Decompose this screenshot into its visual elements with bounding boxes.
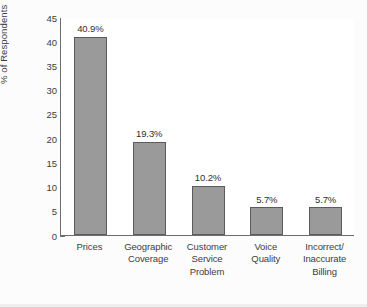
x-axis-label: GeographicCoverage — [119, 241, 178, 266]
x-axis-label-line: Geographic — [119, 241, 178, 253]
x-axis-label-line: Service — [178, 253, 237, 265]
x-axis-label: CustomerServiceProblem — [178, 241, 237, 278]
x-axis-label-line: Billing — [295, 266, 354, 278]
bar-value-label: 5.7% — [256, 194, 277, 205]
y-axis-tick-label: 0 — [52, 230, 60, 241]
x-axis-label-line: Quality — [236, 253, 295, 265]
y-axis-tick-label: 40 — [46, 36, 60, 47]
y-axis-tick-label: 5 — [52, 206, 60, 217]
y-axis-title: % of Respondents — [0, 0, 9, 84]
bar-group[interactable]: 5.7% — [250, 17, 283, 235]
x-axis-label: VoiceQuality — [236, 241, 295, 266]
x-axis-label: Incorrect/InaccurateBilling — [295, 241, 354, 278]
y-axis-tick-label: 20 — [46, 133, 60, 144]
y-axis-tick-label: 45 — [46, 12, 60, 23]
x-axis-label: Prices — [60, 241, 119, 253]
x-axis-label-line: Inaccurate — [295, 253, 354, 265]
bar-value-label: 10.2% — [195, 172, 221, 183]
bar-rect[interactable] — [133, 142, 166, 235]
y-axis-tick-label: 35 — [46, 60, 60, 71]
bar-value-label: 40.9% — [77, 23, 103, 34]
plot-area: 40.9%19.3%10.2%5.7%5.7% — [60, 18, 354, 236]
x-axis-label-line: Incorrect/ — [295, 241, 354, 253]
x-axis-label-line: Prices — [60, 241, 119, 253]
bar-group[interactable]: 40.9% — [74, 17, 107, 235]
bar-chart-figure: The remaining 20% is due to involuntary … — [0, 0, 367, 307]
y-axis-tick-label: 15 — [46, 157, 60, 168]
bar-rect[interactable] — [250, 207, 283, 235]
y-axis-tick-label: 10 — [46, 182, 60, 193]
bar-group[interactable]: 19.3% — [133, 17, 166, 235]
x-axis-label-line: Customer — [178, 241, 237, 253]
y-axis-tick-label: 30 — [46, 85, 60, 96]
bar-group[interactable]: 5.7% — [309, 17, 342, 235]
bar-rect[interactable] — [74, 37, 107, 235]
x-axis-label-line: Coverage — [119, 253, 178, 265]
bar-value-label: 19.3% — [136, 128, 162, 139]
y-axis-tick-label: 25 — [46, 109, 60, 120]
bar-rect[interactable] — [309, 207, 342, 235]
x-axis-label-line: Voice — [236, 241, 295, 253]
x-axis-label-line: Problem — [178, 266, 237, 278]
bar-group[interactable]: 10.2% — [192, 17, 225, 235]
bar-rect[interactable] — [192, 186, 225, 235]
bar-value-label: 5.7% — [315, 194, 336, 205]
y-axis-tick-mark — [60, 236, 65, 237]
